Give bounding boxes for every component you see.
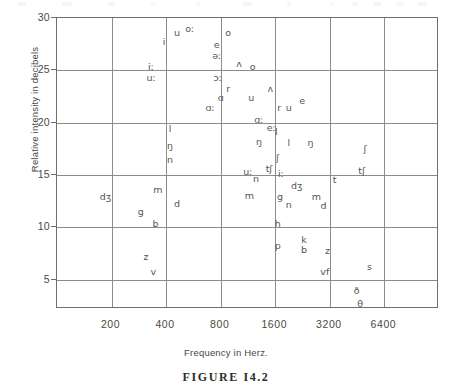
y-axis-label: Relative intensity in decibels [29, 30, 40, 190]
x-axis: 200400800160032006400 [0, 0, 452, 390]
x-tick-label: 200 [101, 318, 120, 330]
x-tick-label: 400 [155, 318, 174, 330]
x-axis-label: Frequency in Herz. [0, 347, 452, 358]
x-tick-label: 3200 [316, 318, 342, 330]
x-tick-label: 6400 [371, 318, 397, 330]
x-tick-label: 1600 [261, 318, 287, 330]
figure-caption: FIGURE I4.2 [0, 370, 452, 385]
figure-14-2: uoːoieəːʌoiːuːɔːrʌɑueɑːruɑːeːllŋŋlŋʃnʃtʃ… [0, 0, 452, 390]
x-tick-label: 800 [210, 318, 229, 330]
